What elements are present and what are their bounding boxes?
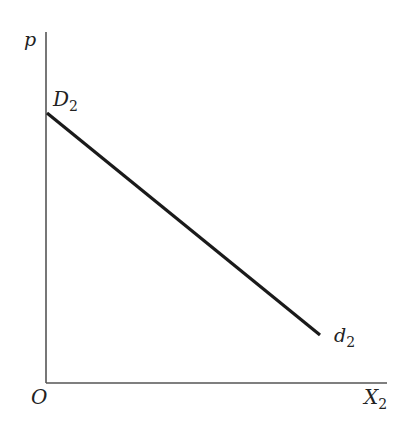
demand-line <box>47 113 320 335</box>
y-axis-label: p <box>24 28 36 50</box>
demand-end-label: d2 <box>334 324 355 350</box>
x-axis-label: X2 <box>362 385 387 412</box>
origin-label: O <box>31 385 47 409</box>
demand-start-label: D2 <box>52 87 78 114</box>
demand-diagram: p D2 d2 O X2 <box>0 0 418 429</box>
